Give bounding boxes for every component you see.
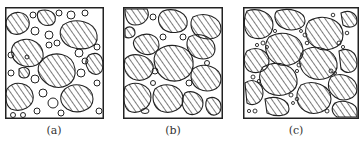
panel-a-label: (a) — [34, 124, 74, 137]
microstructure-b — [123, 7, 223, 119]
microstructure-c — [243, 7, 359, 119]
panel-b — [123, 7, 223, 119]
panel-a — [5, 7, 104, 119]
microstructure-a — [5, 7, 104, 119]
panel-c-label: (c) — [276, 124, 316, 137]
panel-c — [243, 7, 359, 119]
panel-b-label: (b) — [153, 124, 193, 137]
